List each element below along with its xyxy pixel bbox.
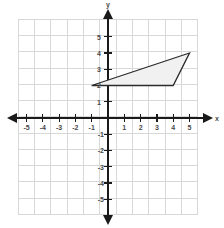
y-tick-label-5: 5 xyxy=(97,34,101,41)
y-tick-label-2: 2 xyxy=(97,82,101,89)
x-tick-label--1: -1 xyxy=(89,124,95,131)
tick-labels: -5 -4 -3 -2 -1 1 2 3 4 5 5 4 3 2 1 -1 -2… xyxy=(23,1,219,203)
x-axis-label: x xyxy=(215,115,219,122)
coordinate-plane-figure: -5 -4 -3 -2 -1 1 2 3 4 5 5 4 3 2 1 -1 -2… xyxy=(0,0,224,228)
axes xyxy=(7,9,213,225)
y-tick-label-3: 3 xyxy=(97,66,101,73)
y-tick-label--3: -3 xyxy=(98,164,104,171)
x-tick-label-4: 4 xyxy=(171,124,175,131)
y-tick-label--1: -1 xyxy=(98,131,104,138)
x-tick-label-3: 3 xyxy=(155,124,159,131)
y-tick-label-4: 4 xyxy=(97,50,101,57)
x-axis-arrow-left xyxy=(7,113,17,123)
y-tick-label--4: -4 xyxy=(98,180,104,187)
x-tick-label-2: 2 xyxy=(139,124,143,131)
graph-canvas: -5 -4 -3 -2 -1 1 2 3 4 5 5 4 3 2 1 -1 -2… xyxy=(0,0,224,228)
x-tick-label--3: -3 xyxy=(56,124,62,131)
y-tick-label--2: -2 xyxy=(98,147,104,154)
x-axis-arrow-right xyxy=(203,113,213,123)
x-tick-label--2: -2 xyxy=(72,124,78,131)
y-tick-label-1: 1 xyxy=(97,99,101,106)
y-axis-arrow-up xyxy=(103,9,113,19)
y-tick-label--5: -5 xyxy=(98,196,104,203)
x-tick-label--5: -5 xyxy=(23,124,29,131)
y-axis-label: y xyxy=(106,1,110,9)
x-tick-label-5: 5 xyxy=(188,124,192,131)
y-axis-arrow-down xyxy=(103,215,113,225)
x-tick-label--4: -4 xyxy=(40,124,46,131)
x-tick-label-1: 1 xyxy=(122,124,126,131)
